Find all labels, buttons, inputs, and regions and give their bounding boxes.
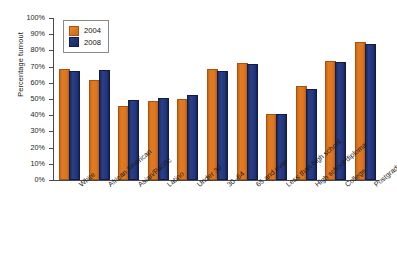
bar [365, 44, 376, 180]
legend-entry: 2004 [69, 26, 101, 36]
x-axis-label: Less than high school [284, 182, 290, 189]
y-axis-tick-label: 70% [31, 62, 45, 71]
legend-entry: 2008 [69, 37, 101, 47]
y-axis-tick-label: 0% [35, 175, 45, 184]
legend-swatch-icon [69, 26, 79, 36]
bar-group [296, 18, 315, 180]
bar-group [118, 18, 137, 180]
bar-group [237, 18, 256, 180]
legend-label: 2008 [84, 38, 101, 47]
chart-legend: 20042008 [63, 20, 109, 53]
legend-label: 2004 [84, 26, 101, 35]
x-axis-label: 65 and over [254, 182, 260, 189]
x-axis-label: High school diploma [313, 182, 319, 189]
x-axis-label: 30–64 [225, 182, 231, 189]
x-axis-label: Postgraduate [372, 182, 378, 189]
bar-group [177, 18, 196, 180]
x-axis-label: Under 30 [195, 182, 201, 189]
bar-group [266, 18, 285, 180]
x-axis-label: Latino [165, 182, 171, 189]
y-axis-tick-label: 30% [31, 126, 45, 135]
x-axis-label-group: WhiteAfrican AmericanAsian/PacificLatino… [54, 182, 394, 260]
y-axis-tick-label: 40% [31, 110, 45, 119]
x-axis-label: African American [106, 182, 112, 189]
y-axis-tick-label: 100% [27, 13, 45, 22]
x-axis-label: White [77, 182, 83, 189]
y-axis-title: Percentage turnout [16, 5, 25, 125]
x-axis-line [53, 180, 379, 181]
y-axis-tick-label: 20% [31, 143, 45, 152]
legend-swatch-icon [69, 37, 79, 47]
y-axis-tick-label: 90% [31, 29, 45, 38]
y-axis-tick-label: 60% [31, 78, 45, 87]
bar [187, 95, 198, 180]
bar [69, 71, 80, 180]
x-axis-label: College [343, 182, 349, 189]
y-axis-tick-label: 10% [31, 159, 45, 168]
y-axis-tick-label: 80% [31, 45, 45, 54]
bar-group [207, 18, 226, 180]
bar-chart-figure: Percentage turnout 0%10%20%30%40%50%60%7… [0, 0, 397, 261]
x-axis-label: Asian/Pacific [136, 182, 142, 189]
bar [99, 70, 110, 180]
y-axis-tick-label: 50% [31, 94, 45, 103]
bar [247, 64, 258, 180]
